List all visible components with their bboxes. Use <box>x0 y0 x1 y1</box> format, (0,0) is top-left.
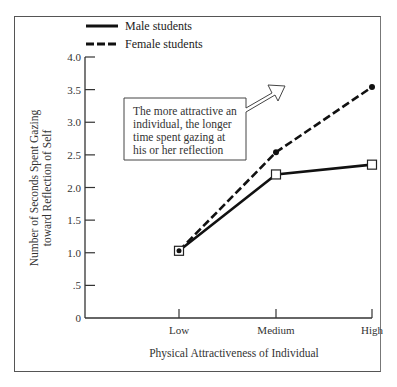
female-data-point <box>177 248 182 253</box>
line-chart: Male students Female students 0.51.01.52… <box>0 0 397 387</box>
x-tick-label: Low <box>169 324 189 336</box>
y-tick-label: 2.5 <box>67 149 81 161</box>
male-data-point <box>272 170 281 179</box>
x-axis-title: Physical Attractiveness of Individual <box>149 347 319 360</box>
y-tick-label: 3.5 <box>67 84 81 96</box>
annotation-callout: The more attractive anindividual, the lo… <box>124 85 285 160</box>
y-axis-title-line2: toward Reflection of Self <box>41 130 53 247</box>
x-tick-label: High <box>361 324 384 336</box>
annotation-line: individual, the longer <box>133 118 232 131</box>
annotation-line: his or her reflection <box>133 144 224 156</box>
y-tick-label: 1.5 <box>67 214 81 226</box>
y-tick-label: 0 <box>76 312 82 324</box>
annotation-line: The more attractive an <box>133 105 237 117</box>
y-axis-ticks: 0.51.01.52.02.53.03.54.0 <box>67 51 95 324</box>
y-tick-label: 2.0 <box>67 182 81 194</box>
y-axis-title: Number of Seconds Spent Gazing toward Re… <box>28 110 53 267</box>
legend-female-label: Female students <box>125 37 203 51</box>
y-tick-label: 3.0 <box>67 116 81 128</box>
legend: Male students Female students <box>86 19 203 51</box>
male-data-point <box>368 160 377 169</box>
y-tick-label: 4.0 <box>67 51 81 63</box>
annotation-line: time spent gazing at <box>133 131 226 144</box>
y-tick-label: 1.0 <box>67 247 81 259</box>
female-data-point <box>369 84 375 90</box>
x-tick-label: Medium <box>257 324 295 336</box>
annotation-text: The more attractive anindividual, the lo… <box>133 105 237 156</box>
x-axis-ticks: LowMediumHigh <box>169 309 384 336</box>
y-tick-label: .5 <box>73 279 82 291</box>
y-axis: 0.51.01.52.02.53.03.54.0 <box>67 51 95 324</box>
y-axis-title-line1: Number of Seconds Spent Gazing <box>28 110 41 267</box>
legend-male-label: Male students <box>125 19 192 33</box>
female-data-point <box>273 149 279 155</box>
x-axis: LowMediumHigh <box>85 309 384 336</box>
